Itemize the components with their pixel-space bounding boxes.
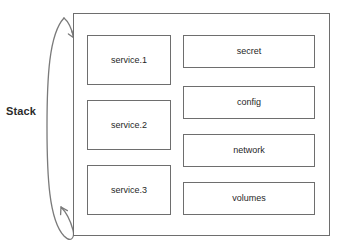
service-box-2[interactable]: service.2 (87, 100, 171, 150)
stack-container: service.1 service.2 service.3 secret con… (73, 13, 330, 236)
service-box-3[interactable]: service.3 (87, 165, 171, 215)
resource-box-config[interactable]: config (183, 86, 315, 119)
service-box-1[interactable]: service.1 (87, 35, 171, 85)
resource-box-volumes[interactable]: volumes (183, 182, 315, 215)
stack-label: Stack (6, 104, 48, 118)
diagram-canvas: Stack service.1 service.2 service.3 secr… (0, 0, 342, 251)
loop-arrow-lower-path (47, 18, 74, 239)
resource-box-secret[interactable]: secret (183, 35, 315, 68)
resource-box-network[interactable]: network (183, 134, 315, 167)
